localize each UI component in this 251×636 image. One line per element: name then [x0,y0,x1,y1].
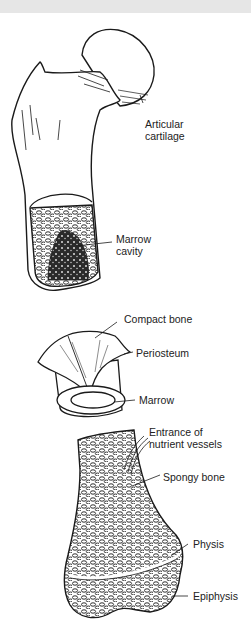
label-articular-cartilage: Articular cartilage [145,118,185,142]
label-compact-bone: Compact bone [124,313,192,325]
label-nutrient-vessels: Entrance of nutrient vessels [149,426,222,450]
shaft-section-drawing [38,322,135,417]
distal-end-drawing [65,430,189,618]
label-marrow-cavity: Marrow cavity [116,233,151,257]
label-periosteum: Periosteum [136,347,189,359]
label-marrow: Marrow [139,394,174,406]
label-epiphysis: Epiphysis [193,590,238,602]
label-physis: Physis [193,538,224,550]
label-spongy-bone: Spongy bone [163,471,225,483]
